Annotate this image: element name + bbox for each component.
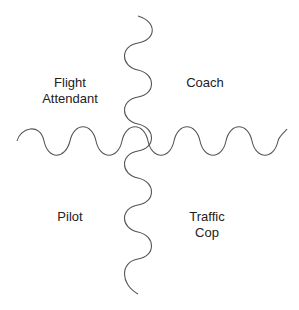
quadrant-label-top-left: Flight Attendant: [42, 75, 98, 107]
label-line: Flight: [42, 75, 98, 91]
quadrant-diagram: [0, 0, 299, 310]
quadrant-label-bottom-right: Traffic Cop: [189, 209, 224, 241]
label-line: Traffic: [189, 209, 224, 225]
label-line: Attendant: [42, 91, 98, 107]
quadrant-label-bottom-left: Pilot: [57, 209, 82, 225]
label-line: Pilot: [57, 209, 82, 225]
label-line: Coach: [186, 75, 224, 91]
quadrant-label-top-right: Coach: [186, 75, 224, 91]
vertical-wavy-axis: [125, 16, 153, 294]
label-line: Cop: [189, 225, 224, 241]
horizontal-wavy-axis: [17, 127, 287, 156]
